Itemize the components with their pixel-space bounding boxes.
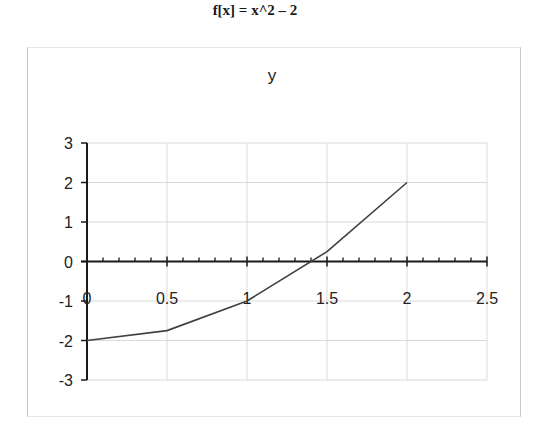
x-tick-label: 2.5 xyxy=(476,290,498,307)
axes xyxy=(81,143,487,380)
y-axis-labels: 3210-1-2-3 xyxy=(59,135,73,389)
y-tick-label: -3 xyxy=(59,372,73,389)
x-tick-label: 1 xyxy=(243,290,252,307)
y-tick-label: -1 xyxy=(59,293,73,310)
y-tick-label: -2 xyxy=(59,333,73,350)
line-chart: y 3210-1-2-3 00.511.522.5 xyxy=(0,0,549,435)
x-tick-label: 0.5 xyxy=(156,290,178,307)
x-axis-labels: 00.511.522.5 xyxy=(83,290,499,307)
x-tick-label: 0 xyxy=(83,290,92,307)
y-tick-label: 3 xyxy=(64,135,73,152)
y-tick-label: 2 xyxy=(64,175,73,192)
x-tick-label: 2 xyxy=(403,290,412,307)
chart-title: y xyxy=(268,66,277,85)
y-tick-label: 0 xyxy=(64,254,73,271)
y-tick-label: 1 xyxy=(64,214,73,231)
x-tick-label: 1.5 xyxy=(316,290,338,307)
